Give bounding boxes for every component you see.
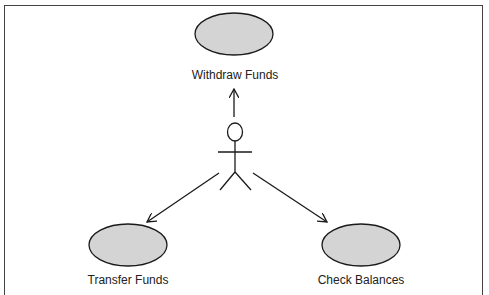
use-case-label-withdraw: Withdraw Funds — [192, 68, 279, 82]
use-case-transfer-funds — [89, 224, 167, 266]
use-case-label-balances: Check Balances — [318, 273, 405, 287]
association-arrow-balances — [253, 173, 327, 222]
use-case-label-transfer: Transfer Funds — [88, 273, 169, 287]
use-case-withdraw-funds — [195, 13, 273, 55]
use-case-check-balances — [322, 224, 400, 266]
association-arrow-transfer — [147, 173, 219, 222]
actor-stick-figure-icon — [218, 123, 252, 190]
